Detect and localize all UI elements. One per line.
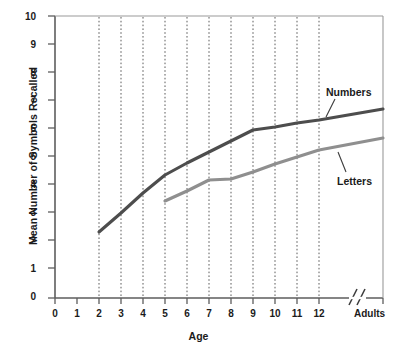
series-line-numbers	[99, 109, 383, 232]
chart-figure: Mean Number of Symbols Recalled Age 10 9…	[0, 0, 397, 350]
x-tick-marks	[55, 298, 383, 304]
leader-line-numbers	[326, 99, 335, 117]
plot-area	[0, 0, 397, 350]
leader-line-letters	[338, 152, 346, 172]
y-tick-marks	[48, 16, 55, 298]
vertical-gridlines	[99, 17, 319, 297]
series-line-letters	[165, 138, 383, 201]
